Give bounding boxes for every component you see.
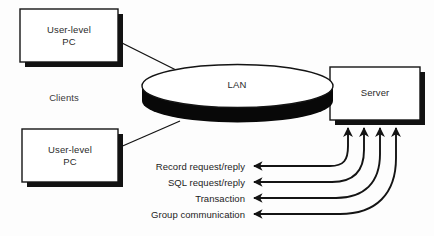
- diagram-canvas: User-level PC User-level PC Server LAN C…: [0, 0, 434, 236]
- server-body: [330, 67, 420, 120]
- flow-arrow-record: [254, 128, 348, 166]
- clients-group-label: Clients: [24, 92, 104, 103]
- connector-client-bottom-to-lan: [118, 121, 180, 148]
- flow-label-record: Record request/reply: [100, 161, 245, 172]
- flow-label-sql: SQL request/reply: [100, 177, 245, 188]
- node-server[interactable]: [330, 67, 425, 125]
- client-top-body: [20, 9, 118, 62]
- client-bottom-body: [22, 129, 118, 182]
- flow-label-group: Group communication: [100, 209, 245, 220]
- lan-cylinder-top: [142, 65, 333, 108]
- node-lan-cylinder[interactable]: [142, 65, 333, 123]
- flow-arrow-group: [254, 128, 396, 214]
- flow-label-transaction: Transaction: [100, 193, 245, 204]
- flow-arrow-transaction: [254, 128, 380, 198]
- node-client-top[interactable]: [20, 9, 123, 67]
